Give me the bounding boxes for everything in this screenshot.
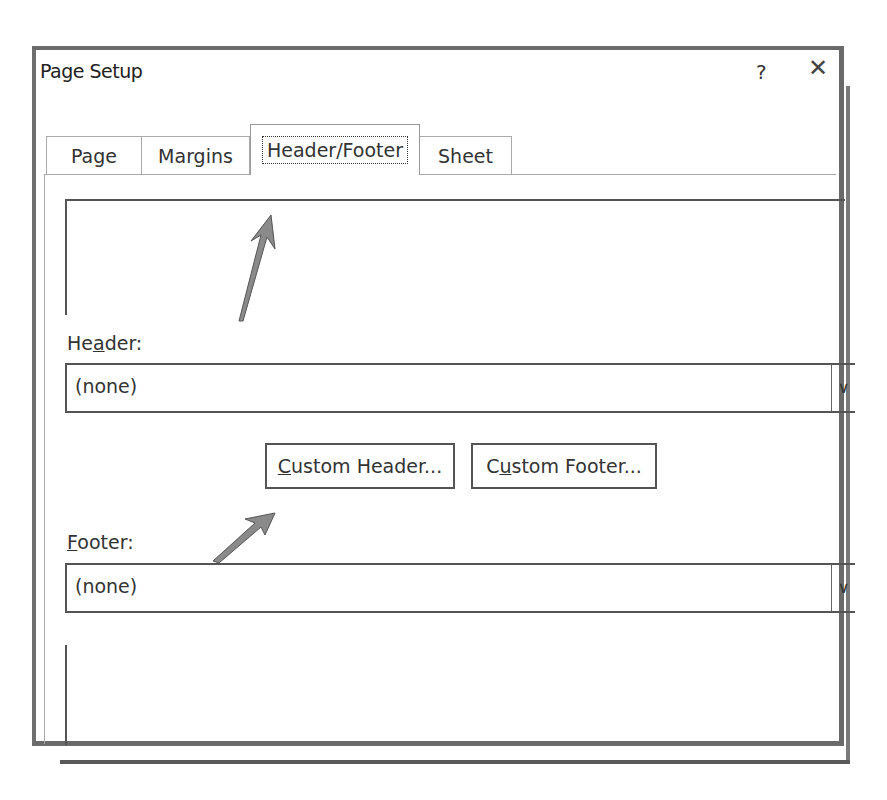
footer-preview <box>65 645 67 745</box>
tab-margins[interactable]: Margins <box>142 136 250 174</box>
dialog-title: Page Setup <box>40 60 142 82</box>
header-footer-panel: Header: (none) ∨ Custom Header... Custom… <box>44 174 836 744</box>
custom-header-button[interactable]: Custom Header... <box>265 443 455 489</box>
page-setup-dialog: Page Setup ? ✕ Page Margins Header/Foote… <box>32 46 844 746</box>
header-select-value: (none) <box>75 375 137 397</box>
tab-header-footer[interactable]: Header/Footer <box>250 124 420 175</box>
footer-select[interactable]: (none) ∨ <box>65 563 855 613</box>
chevron-down-icon[interactable]: ∨ <box>831 565 855 611</box>
dialog-shadow-right <box>846 86 850 762</box>
tab-label: Sheet <box>438 145 493 167</box>
header-select[interactable]: (none) ∨ <box>65 363 855 413</box>
header-label: Header: <box>67 332 142 354</box>
custom-footer-button[interactable]: Custom Footer... <box>471 443 657 489</box>
annotation-arrow-icon <box>205 505 285 565</box>
tab-label: Header/Footer <box>262 136 408 164</box>
footer-label: Footer: <box>67 531 134 553</box>
tab-label: Page <box>71 145 117 167</box>
annotation-arrow-icon <box>231 215 291 325</box>
footer-select-value: (none) <box>75 575 137 597</box>
chevron-down-icon[interactable]: ∨ <box>831 365 855 411</box>
dialog-shadow-bottom <box>60 760 850 764</box>
tab-sheet[interactable]: Sheet <box>420 136 512 174</box>
tab-label: Margins <box>158 145 233 167</box>
help-icon[interactable]: ? <box>756 60 767 84</box>
tab-page[interactable]: Page <box>46 136 142 174</box>
header-preview <box>65 199 845 315</box>
close-icon[interactable]: ✕ <box>808 56 828 80</box>
